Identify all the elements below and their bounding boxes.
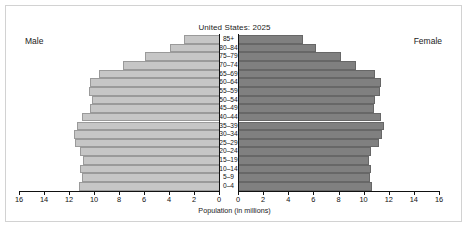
pyramid-row: 80–84 <box>6 44 463 53</box>
male-bar[interactable] <box>79 182 219 191</box>
age-group-label: 65–69 <box>219 70 238 79</box>
male-bar[interactable] <box>82 113 220 122</box>
female-zero-axis <box>238 34 239 191</box>
female-bar[interactable] <box>238 61 356 70</box>
female-bar[interactable] <box>238 70 375 79</box>
male-bar[interactable] <box>92 96 220 105</box>
female-bar[interactable] <box>238 35 303 44</box>
x-tick-label: 12 <box>385 195 393 204</box>
pyramid-row: 85+ <box>6 35 463 44</box>
age-group-label: 30–34 <box>219 130 238 139</box>
x-tick-label: 16 <box>435 195 443 204</box>
pyramid-row: 0–4 <box>6 182 463 191</box>
male-bar[interactable] <box>75 139 219 148</box>
female-bar[interactable] <box>238 104 374 113</box>
age-group-label: 0–4 <box>219 182 238 191</box>
male-bar[interactable] <box>77 122 220 131</box>
pyramid-row: 40–44 <box>6 113 463 122</box>
x-tick-label: 2 <box>192 195 196 204</box>
pyramid-row: 20–24 <box>6 147 463 156</box>
female-bar[interactable] <box>238 139 379 148</box>
age-group-label: 60–64 <box>219 78 238 87</box>
age-group-label: 70–74 <box>219 61 238 70</box>
female-bar[interactable] <box>238 165 371 174</box>
male-bar[interactable] <box>80 147 219 156</box>
age-group-label: 5–9 <box>219 173 238 182</box>
female-bar[interactable] <box>238 156 369 165</box>
pyramid-row: 60–64 <box>6 78 463 87</box>
age-group-label: 35–39 <box>219 122 238 131</box>
female-bar[interactable] <box>238 78 381 87</box>
male-bar[interactable] <box>89 87 219 96</box>
male-bar[interactable] <box>80 165 219 174</box>
pyramid-row: 50–54 <box>6 96 463 105</box>
pyramid-row: 55–59 <box>6 87 463 96</box>
age-group-label: 85+ <box>219 35 238 44</box>
age-group-label: 45–49 <box>219 104 238 113</box>
pyramid-row: 15–19 <box>6 156 463 165</box>
male-bar[interactable] <box>90 104 219 113</box>
x-tick-label: 6 <box>311 195 315 204</box>
male-bar[interactable] <box>170 44 219 53</box>
x-tick-label: 2 <box>261 195 265 204</box>
pyramid-row: 75–79 <box>6 52 463 61</box>
male-bar[interactable] <box>74 130 219 139</box>
female-bar[interactable] <box>238 130 382 139</box>
age-group-label: 40–44 <box>219 113 238 122</box>
male-bar[interactable] <box>90 78 219 87</box>
male-zero-axis <box>219 34 220 191</box>
female-bar[interactable] <box>238 113 381 122</box>
male-bar[interactable] <box>145 52 219 61</box>
female-bar[interactable] <box>238 87 380 96</box>
x-tick-label: 8 <box>336 195 340 204</box>
age-group-label: 75–79 <box>219 52 238 61</box>
female-bar[interactable] <box>238 147 371 156</box>
x-tick-label: 0 <box>217 195 221 204</box>
x-tick-label: 16 <box>15 195 23 204</box>
x-tick-label: 10 <box>360 195 368 204</box>
age-group-label: 50–54 <box>219 96 238 105</box>
chart-frame: United States: 2025 Male Female 85+80–84… <box>5 5 462 222</box>
female-bar[interactable] <box>238 96 375 105</box>
x-tick-label: 10 <box>90 195 98 204</box>
female-bar[interactable] <box>238 182 372 191</box>
pyramid-row: 45–49 <box>6 104 463 113</box>
male-bar[interactable] <box>99 70 219 79</box>
x-tick-label: 4 <box>167 195 171 204</box>
age-group-label: 15–19 <box>219 156 238 165</box>
female-bar[interactable] <box>238 122 384 131</box>
female-bar[interactable] <box>238 44 316 53</box>
pyramid-row: 30–34 <box>6 130 463 139</box>
x-tick-label: 12 <box>65 195 73 204</box>
x-tick-label: 4 <box>286 195 290 204</box>
male-bar[interactable] <box>123 61 219 70</box>
pyramid-row: 35–39 <box>6 122 463 131</box>
x-tick-label: 14 <box>410 195 418 204</box>
pyramid-row: 65–69 <box>6 70 463 79</box>
x-axis-title: Population (in millions) <box>6 206 463 215</box>
male-bar[interactable] <box>83 156 219 165</box>
pyramid-row: 10–14 <box>6 165 463 174</box>
x-tick-label: 0 <box>236 195 240 204</box>
pyramid-row: 5–9 <box>6 173 463 182</box>
pyramid-row: 25–29 <box>6 139 463 148</box>
x-tick-label: 8 <box>117 195 121 204</box>
age-group-label: 10–14 <box>219 165 238 174</box>
male-bar[interactable] <box>184 35 219 44</box>
age-group-label: 80–84 <box>219 44 238 53</box>
age-group-label: 25–29 <box>219 139 238 148</box>
age-group-label: 55–59 <box>219 87 238 96</box>
age-group-label: 20–24 <box>219 147 238 156</box>
x-tick-label: 6 <box>142 195 146 204</box>
female-bar[interactable] <box>238 173 370 182</box>
female-bar[interactable] <box>238 52 341 61</box>
male-bar[interactable] <box>82 173 220 182</box>
x-tick-label: 14 <box>40 195 48 204</box>
pyramid-row: 70–74 <box>6 61 463 70</box>
